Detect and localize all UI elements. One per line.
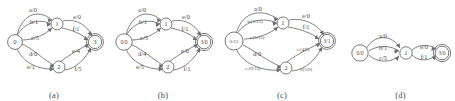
panel-a: 0 1 2 3 a/0 b/1 c/5 d/0 e/1 e/0 f/1 e/4 …: [0, 0, 108, 101]
edge-label-b-e0b: e/0: [181, 47, 189, 54]
panel-caption-d: (d): [346, 90, 455, 100]
edge-label-a-d0: d/0: [29, 50, 37, 57]
edge-label-b-f1: f/1: [181, 25, 188, 32]
edge-label-c-a0: a/0: [254, 5, 262, 12]
panel-caption-c: (c): [218, 90, 346, 100]
state-label-b-1: 1: [164, 20, 167, 27]
edge-label-a-e0: e/0: [73, 13, 81, 20]
state-label-b-2: 2: [166, 63, 169, 70]
figure-root: 0 1 2 3 a/0 b/1 c/5 d/0 e/1 e/0 f/1 e/4 …: [0, 0, 455, 101]
arrowhead-icon: [395, 56, 400, 61]
edge-label-a-e1: e/1: [27, 63, 35, 70]
state-label-d-1: 1: [404, 49, 407, 56]
edge-label-d-c5: c/5: [379, 54, 387, 61]
edge-label-d-e0: e/0: [420, 43, 428, 50]
state-label-d-3: 3/0: [438, 50, 445, 56]
state-label-c-0: 0/15: [230, 39, 239, 44]
state-label-a-2: 2: [57, 63, 60, 70]
edge-label-c-e0: e/0: [302, 12, 310, 19]
edge-label-b-d4: d/4: [138, 50, 147, 57]
edge-label-b-a0: a/0: [138, 6, 146, 13]
panel-caption-b: (b): [108, 90, 218, 100]
edge-label-b-b1: b/1: [139, 18, 147, 25]
edge-label-a-a0: a/0: [29, 6, 37, 13]
state-label-c-1: 1: [281, 19, 284, 26]
state-label-a-1: 1: [55, 20, 58, 27]
edge-label-c-f59: f/(5/9): [300, 67, 312, 72]
edge-label-d-f1: f/1: [420, 53, 427, 60]
state-label-d-0: 0/0: [356, 50, 363, 56]
edge-label-b-e0: e/0: [182, 13, 190, 20]
state-label-c-2: 2: [284, 64, 287, 71]
state-label-b-0: 0/0: [120, 39, 127, 45]
edge-label-b-e5: e/5: [136, 63, 144, 70]
edge-label-a-e4: e/4: [72, 47, 81, 54]
edge-label-c-b: b/(1/15): [247, 19, 263, 24]
state-label-c-3: 3/1: [323, 38, 330, 44]
panel-a-graph: 0 1 2 3 a/0 b/1 c/5 d/0 e/1 e/0 f/1 e/4 …: [0, 0, 108, 88]
panel-c-graph: 0/15 1 2 3/1 a/0 b/(1/15) c/(5/15) d/0 e…: [218, 0, 346, 88]
arrowhead-icon: [396, 43, 400, 48]
edge-c0-c2-d: [243, 45, 282, 67]
edge-label-a-f5: f/5: [74, 65, 81, 72]
panel-d: 0/0 1 3/0 a/0 b/1 c/5 e/0 f/1 (d): [346, 0, 455, 101]
edge-label-d-a0: a/0: [379, 32, 387, 39]
panel-b-graph: 0/0 1 2 3/0 a/0 b/1 c/5 d/4 e/5 e/0 f/1 …: [108, 0, 218, 88]
panel-caption-a: (a): [0, 90, 108, 100]
panel-b: 0/0 1 2 3/0 a/0 b/1 c/5 d/4 e/5 e/0 f/1 …: [108, 0, 218, 101]
edge-label-c-e49: e/(4/9): [297, 47, 310, 52]
edge-label-a-b1: b/1: [30, 18, 38, 25]
panel-d-graph: 0/0 1 3/0 a/0 b/1 c/5 e/0 f/1: [346, 0, 455, 88]
panel-c: 0/15 1 2 3/1 a/0 b/(1/15) c/(5/15) d/0 e…: [218, 0, 346, 101]
edge-label-c-c: c/(5/15): [250, 35, 265, 40]
arrowhead-icon: [315, 35, 319, 39]
arrowhead-icon: [273, 27, 278, 31]
edge-label-c-d0: d/0: [253, 50, 261, 57]
state-label-b-3: 3/0: [200, 39, 207, 45]
edge-label-a-c5: c/5: [31, 34, 39, 41]
edge-label-b-c5: c/5: [140, 34, 148, 41]
edge-label-d-b1: b/1: [379, 44, 387, 51]
edge-label-b-f1b: f/1: [183, 65, 190, 72]
edge-label-a-f1: f/1: [72, 25, 79, 32]
edge-label-c-f1: f/1: [302, 23, 309, 30]
edge-c2-c3-e: [287, 43, 320, 62]
edge-label-c-e9: e/(9/15): [246, 66, 261, 71]
